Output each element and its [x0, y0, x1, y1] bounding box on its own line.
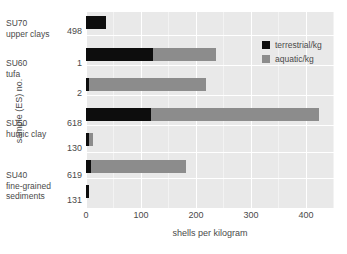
gridline-y-1	[86, 35, 334, 36]
gridline-y-5	[86, 152, 334, 153]
plot-panel: terrestrial/kg aquatic/kg	[86, 12, 334, 208]
bar-segment-aquatic	[89, 78, 206, 91]
x-tick-100: 100	[121, 210, 161, 220]
legend-item-aquatic: aquatic/kg	[262, 54, 322, 64]
gridline-y-3	[86, 95, 334, 96]
chart-legend: terrestrial/kg aquatic/kg	[262, 40, 322, 68]
x-tick-400: 400	[286, 210, 326, 220]
y-tick-2: 2	[48, 88, 82, 98]
gridline-y-6	[86, 178, 334, 179]
bar-segment-aquatic	[89, 133, 93, 146]
legend-item-terrestrial: terrestrial/kg	[262, 40, 322, 50]
legend-swatch-terrestrial-icon	[262, 41, 270, 49]
legend-swatch-aquatic-icon	[262, 55, 270, 63]
x-tick-0: 0	[66, 210, 106, 220]
bar-segment-terrestrial	[86, 185, 89, 198]
legend-label-terrestrial: terrestrial/kg	[275, 40, 322, 50]
bar-segment-aquatic	[91, 160, 186, 173]
bar-segment-terrestrial	[86, 48, 153, 61]
y-tick-1: 1	[48, 58, 82, 68]
chart-figure: sample (ES) no. SU70 upper clays SU60 tu…	[0, 0, 347, 254]
y-tick-498: 498	[48, 26, 82, 36]
x-axis-title: shells per kilogram	[86, 228, 334, 238]
x-tick-200: 200	[176, 210, 216, 220]
y-tick-130: 130	[48, 143, 82, 153]
legend-label-aquatic: aquatic/kg	[275, 54, 314, 64]
bar-segment-aquatic	[153, 48, 216, 61]
y-tick-131: 131	[48, 195, 82, 205]
bar-segment-aquatic	[151, 108, 319, 121]
x-tick-300: 300	[231, 210, 271, 220]
y-tick-labels: 498 1 2 618 130 619 131	[46, 12, 82, 208]
x-tick-labels: 0 100 200 300 400	[86, 210, 334, 224]
gridline-y-4	[86, 125, 334, 126]
y-tick-619: 619	[48, 170, 82, 180]
bar-segment-terrestrial	[86, 16, 106, 29]
bar-segment-terrestrial	[86, 108, 151, 121]
y-tick-618: 618	[48, 118, 82, 128]
